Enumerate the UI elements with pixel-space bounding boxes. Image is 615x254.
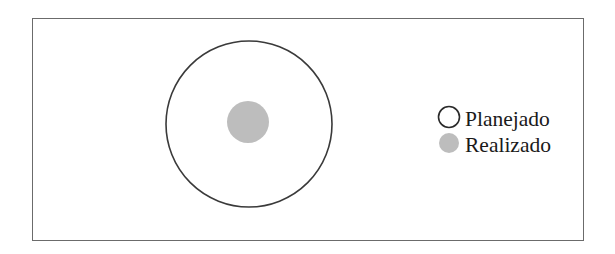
legend-label-planejado: Planejado <box>465 107 550 131</box>
legend-item-realizado: Realizado <box>439 133 551 157</box>
legend-label-realizado: Realizado <box>465 133 551 157</box>
legend-item-planejado: Planejado <box>439 107 550 132</box>
chart-canvas: Planejado Realizado <box>0 0 615 254</box>
realizado-dot <box>227 101 269 143</box>
open-circle-icon <box>439 107 460 128</box>
filled-circle-icon <box>439 133 459 153</box>
legend: Planejado Realizado <box>439 107 551 158</box>
